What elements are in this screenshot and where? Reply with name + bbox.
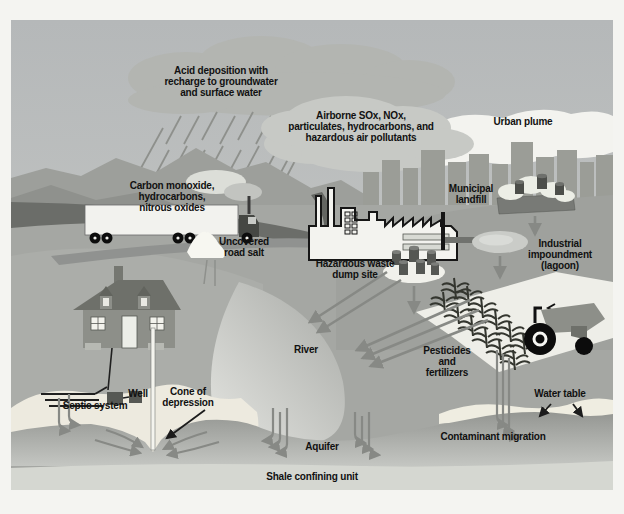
label-aquifer: Aquifer bbox=[305, 441, 339, 452]
diagram-scene bbox=[11, 20, 613, 490]
label-septic-system: Septic system bbox=[63, 400, 128, 411]
outfall-pole bbox=[441, 212, 445, 250]
outfall-pipe bbox=[445, 237, 475, 243]
label-uncovered-road-salt: Uncovered road salt bbox=[219, 236, 269, 258]
label-well: Well bbox=[128, 388, 148, 399]
label-river: River bbox=[294, 344, 318, 355]
label-pesticides-fertilizers: Pesticides and fertilizers bbox=[423, 345, 470, 378]
label-acid-deposition: Acid deposition with recharge to groundw… bbox=[164, 65, 277, 98]
label-vehicle-emissions: Carbon monoxide, hydrocarbons, nitrous o… bbox=[130, 180, 215, 213]
diagram-figure: Acid deposition with recharge to groundw… bbox=[11, 20, 613, 490]
well-pipe bbox=[151, 328, 155, 450]
label-water-table: Water table bbox=[534, 388, 585, 399]
industrial-lagoon bbox=[472, 231, 528, 253]
label-cone-of-depression: Cone of depression bbox=[162, 386, 213, 408]
label-urban-plume: Urban plume bbox=[494, 116, 553, 127]
page: { "figure": { "subject": "Sources of gro… bbox=[0, 0, 624, 514]
label-municipal-landfill: Municipal landfill bbox=[449, 183, 493, 205]
label-contaminant-migration: Contaminant migration bbox=[440, 431, 545, 442]
label-hazardous-waste-dump: Hazardous waste dump site bbox=[316, 258, 395, 280]
label-industrial-impoundment: Industrial impoundment (lagoon) bbox=[528, 238, 592, 271]
label-airborne-pollutants: Airborne SOx, NOx, particulates, hydroca… bbox=[288, 110, 434, 143]
label-shale-confining-unit: Shale confining unit bbox=[266, 471, 358, 482]
